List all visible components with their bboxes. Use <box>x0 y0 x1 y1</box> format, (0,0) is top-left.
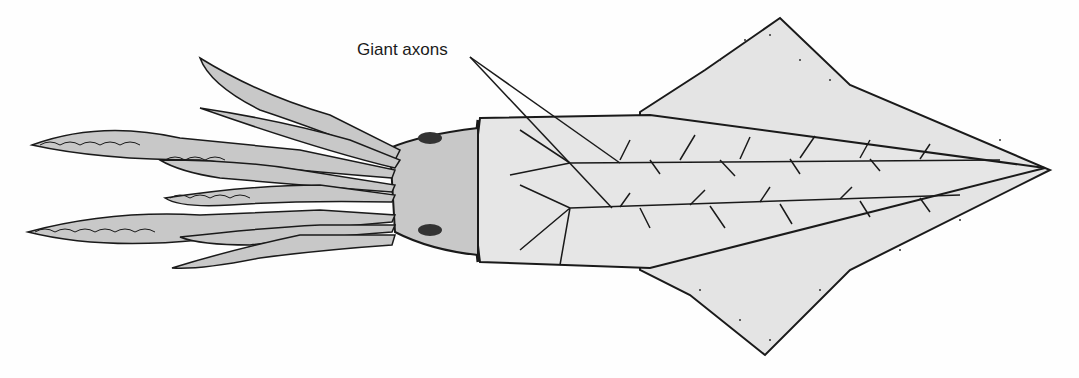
squid-diagram: Giant axons <box>0 0 1079 378</box>
squid-illustration <box>0 0 1079 378</box>
giant-axons-label: Giant axons <box>357 40 448 60</box>
head <box>390 128 478 255</box>
arms <box>28 58 400 268</box>
lower-eye <box>418 224 442 236</box>
upper-eye <box>418 132 442 144</box>
